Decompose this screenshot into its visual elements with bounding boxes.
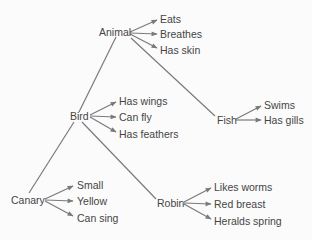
arrow-canary-small [45,186,73,199]
arrow-fish-swims [236,106,261,119]
node-bird: Bird [70,110,89,122]
semantic-network-diagram: Animal Eats Breathes Has skin Bird Has w… [0,0,312,240]
arrow-robin-heralds-spring [184,204,211,219]
node-canary: Canary [11,194,45,206]
property-has-skin: Has skin [160,44,200,56]
arrow-robin-likes-worms [184,188,211,202]
property-can-fly: Can fly [119,111,152,123]
property-breathes: Breathes [160,28,202,40]
node-robin: Robin [157,197,184,209]
arrow-animal-breathes [130,33,157,34]
arrow-bird-has-wings [90,102,116,115]
arrow-bird-has-feathers [90,117,116,132]
property-can-sing: Can sing [77,212,118,224]
arrow-bird-can-fly [90,116,116,117]
arrow-animal-eats [130,20,157,32]
property-swims: Swims [264,99,295,111]
property-has-wings: Has wings [119,95,167,107]
property-eats: Eats [160,13,181,25]
property-yellow: Yellow [77,195,107,207]
arrow-robin-red-breast [184,203,211,204]
arrow-canary-can-sing [45,201,73,216]
property-likes-worms: Likes worms [214,181,272,193]
property-red-breast: Red breast [214,198,265,210]
property-small: Small [77,179,103,191]
link-bird-canary [29,122,74,193]
link-animal-bird [79,37,116,112]
node-fish: Fish [217,114,237,126]
property-heralds-spring: Heralds spring [214,215,282,227]
node-animal: Animal [99,26,131,38]
property-has-feathers: Has feathers [119,128,179,140]
arrow-canary-yellow [45,200,73,201]
property-has-gills: Has gills [264,114,304,126]
